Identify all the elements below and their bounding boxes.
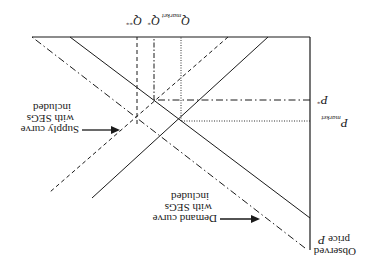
p-star-label: P* — [317, 93, 329, 107]
supply-curve-with-segs — [50, 37, 228, 192]
supply-demand-diagram: Observed price P Pmarket P* Qmarket Q* — [0, 0, 370, 265]
q-star-label: Q* — [147, 14, 160, 28]
demand-annotation-line3: included — [171, 191, 209, 203]
q-market-label: Qmarket — [161, 12, 190, 28]
demand-curve — [70, 37, 310, 218]
supply-curve — [92, 37, 268, 198]
y-axis-label-price: price P — [317, 233, 350, 247]
supply-annotation-line3: included — [33, 102, 71, 114]
q-star-star-label: Q** — [126, 14, 142, 28]
demand-arrowhead-icon — [251, 215, 260, 223]
supply-arrowhead-icon — [111, 126, 120, 134]
p-market-label: Pmarket — [320, 114, 349, 130]
